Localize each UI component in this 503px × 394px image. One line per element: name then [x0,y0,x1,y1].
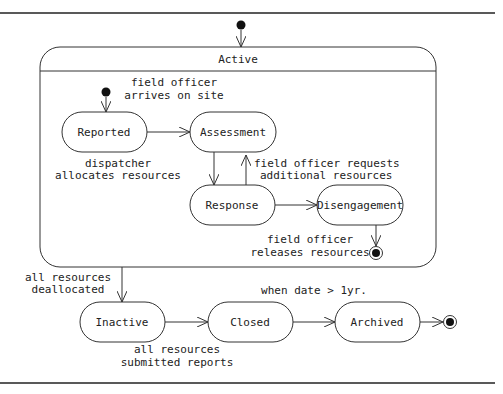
svg-text:Assessment: Assessment [200,126,266,139]
initial-pseudostate-icon [237,21,246,30]
state-closed[interactable]: Closed [208,302,293,342]
label-when-date: when date > 1yr. [261,284,367,297]
label-arrives-1: field officer [131,76,217,89]
label-dispatcher-2: allocates resources [55,169,181,182]
svg-text:Inactive: Inactive [96,316,149,329]
state-response[interactable]: Response [190,185,275,225]
state-archived[interactable]: Archived [335,302,420,342]
svg-text:Closed: Closed [230,316,270,329]
state-diagram: Active field officer arrives on site Rep… [0,0,503,394]
inner-initial-icon [102,88,111,97]
label-releases-2: releases resources [250,246,369,259]
svg-text:Response: Response [206,199,259,212]
label-releases-1: field officer [267,233,353,246]
svg-text:Disengagement: Disengagement [317,199,403,212]
svg-text:Reported: Reported [78,126,131,139]
label-submitted-1: all resources [134,343,220,356]
state-inactive[interactable]: Inactive [80,302,165,342]
label-deallocated-2: deallocated [32,283,105,296]
state-disengagement[interactable]: Disengagement [317,185,403,225]
state-assessment[interactable]: Assessment [190,112,276,152]
label-arrives-2: arrives on site [124,89,223,102]
label-submitted-2: submitted reports [121,356,234,369]
active-label: Active [218,53,258,66]
label-requests-2: additional resources [260,169,392,182]
svg-text:Archived: Archived [351,316,404,329]
state-reported[interactable]: Reported [62,112,147,152]
